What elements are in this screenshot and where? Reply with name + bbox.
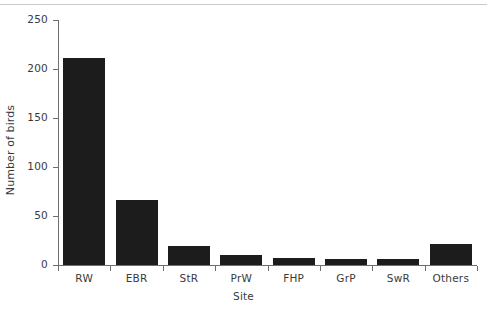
y-tick-label: 250: [0, 13, 48, 25]
bar-chart-figure: Number of birds 050100150200250 RWEBRStR…: [0, 0, 487, 312]
x-tick-label: RW: [58, 272, 110, 284]
x-axis-title: Site: [0, 290, 487, 302]
x-tick-label: GrP: [320, 272, 372, 284]
y-tick-mark: [53, 216, 58, 217]
x-tick-label: StR: [163, 272, 215, 284]
y-tick-mark: [53, 118, 58, 119]
x-tick-mark: [320, 266, 321, 271]
x-tick-label: SwR: [372, 272, 424, 284]
bar-prw: [220, 255, 262, 265]
y-axis-title: Number of birds: [4, 80, 18, 220]
bar-fhp: [273, 258, 315, 265]
bar-others: [430, 244, 472, 265]
bar-str: [168, 246, 210, 265]
x-tick-mark: [163, 266, 164, 271]
bar-rw: [63, 58, 105, 265]
y-tick-label: 200: [0, 62, 48, 74]
y-tick-label: 0: [0, 258, 48, 270]
x-tick-label: EBR: [110, 272, 162, 284]
y-tick-label: 150: [0, 111, 48, 123]
x-tick-label: Others: [425, 272, 477, 284]
y-tick-label: 100: [0, 160, 48, 172]
x-tick-mark: [425, 266, 426, 271]
x-tick-mark: [268, 266, 269, 271]
y-tick-mark: [53, 167, 58, 168]
x-tick-label: PrW: [215, 272, 267, 284]
bar-ebr: [116, 200, 158, 265]
x-tick-mark: [58, 266, 59, 271]
y-tick-mark: [53, 69, 58, 70]
y-axis-line: [58, 20, 59, 266]
x-tick-mark: [110, 266, 111, 271]
y-tick-mark: [53, 20, 58, 21]
x-tick-label: FHP: [268, 272, 320, 284]
x-tick-mark: [372, 266, 373, 271]
x-tick-mark: [477, 266, 478, 271]
page-top-rule: [0, 4, 487, 5]
x-tick-mark: [215, 266, 216, 271]
y-tick-label: 50: [0, 209, 48, 221]
